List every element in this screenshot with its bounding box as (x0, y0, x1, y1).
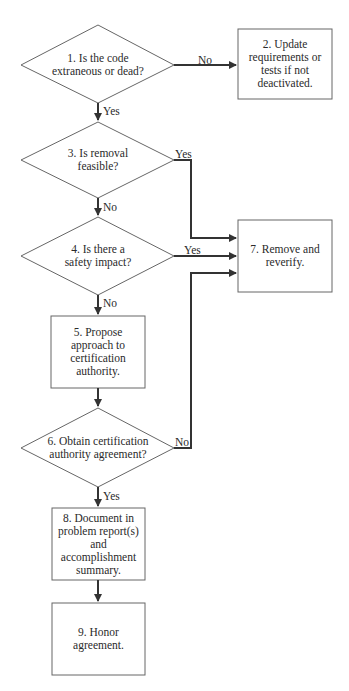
edge-6-7 (174, 273, 236, 448)
edge-6-8-label: Yes (103, 490, 120, 502)
edge-6-7-label: No (175, 436, 189, 448)
edge-3-7-label: Yes (175, 148, 192, 160)
edge-4-7-label: Yes (184, 244, 201, 256)
process-7-label: 7. Remove and reverify. (238, 220, 332, 292)
process-2-label: 2. Update requirements or tests if not d… (238, 29, 332, 99)
decision-3-label: 3. Is removal feasible? (40, 145, 156, 175)
decision-4-label: 4. Is there a safety impact? (40, 241, 156, 271)
process-5-label: 5. Propose approach to certification aut… (51, 316, 145, 388)
decision-6-label: 6. Obtain certification authority agreem… (26, 433, 170, 463)
process-9-label: 9. Honor agreement. (52, 603, 145, 675)
edge-3-7 (174, 160, 236, 238)
edge-4-5-label: No (103, 297, 117, 309)
process-8-label: 8. Document in problem report(s) and acc… (52, 508, 145, 580)
edge-1-3-label: Yes (103, 105, 120, 117)
decision-1-label: 1. Is the code extraneous or dead? (30, 50, 166, 80)
edge-3-4-label: No (103, 201, 117, 213)
edge-1-2-label: No (198, 54, 212, 66)
